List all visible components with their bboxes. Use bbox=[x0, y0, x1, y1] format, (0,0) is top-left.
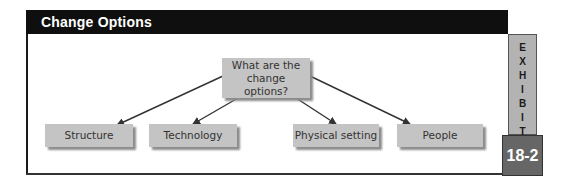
option-label: Technology bbox=[164, 129, 223, 142]
option-label: Structure bbox=[65, 129, 114, 142]
option-node-people: People bbox=[397, 124, 483, 147]
center-node: What are the change options? bbox=[222, 58, 310, 98]
option-node-physical-setting: Physical setting bbox=[293, 124, 379, 147]
option-node-structure: Structure bbox=[45, 124, 133, 147]
option-node-technology: Technology bbox=[149, 124, 237, 147]
option-label: Physical setting bbox=[295, 129, 377, 142]
center-node-label: What are the change options? bbox=[226, 59, 306, 98]
option-label: People bbox=[423, 129, 458, 142]
